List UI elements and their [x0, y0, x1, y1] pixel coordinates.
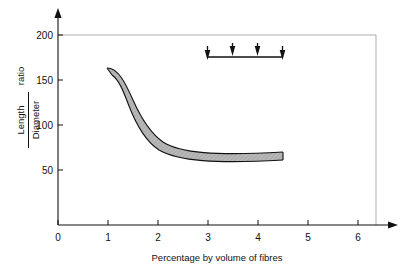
x-tick-label-1: 1 — [105, 232, 111, 243]
chart-canvas: 200 150 100 50 0 1 2 3 4 5 6 Percentage … — [0, 0, 411, 272]
x-tick-label-2: 2 — [155, 232, 161, 243]
x-tick-label-5: 5 — [305, 232, 311, 243]
x-tick-label-3: 3 — [205, 232, 211, 243]
x-tick-label-6: 6 — [355, 232, 361, 243]
y-axis-title-denominator: Diameter — [30, 101, 41, 140]
y-tick-label-200: 200 — [36, 30, 53, 41]
y-axis-title-ratio-word: ratio — [15, 67, 26, 85]
y-tick-label-50: 50 — [42, 165, 54, 176]
x-tick-label-4: 4 — [255, 232, 261, 243]
x-tick-label-0: 0 — [55, 232, 61, 243]
chart-figure: 200 150 100 50 0 1 2 3 4 5 6 Percentage … — [0, 0, 411, 272]
x-axis-title: Percentage by volume of fibres — [152, 252, 283, 263]
y-tick-label-150: 150 — [36, 75, 53, 86]
y-axis-title-numerator: Length — [15, 105, 26, 134]
